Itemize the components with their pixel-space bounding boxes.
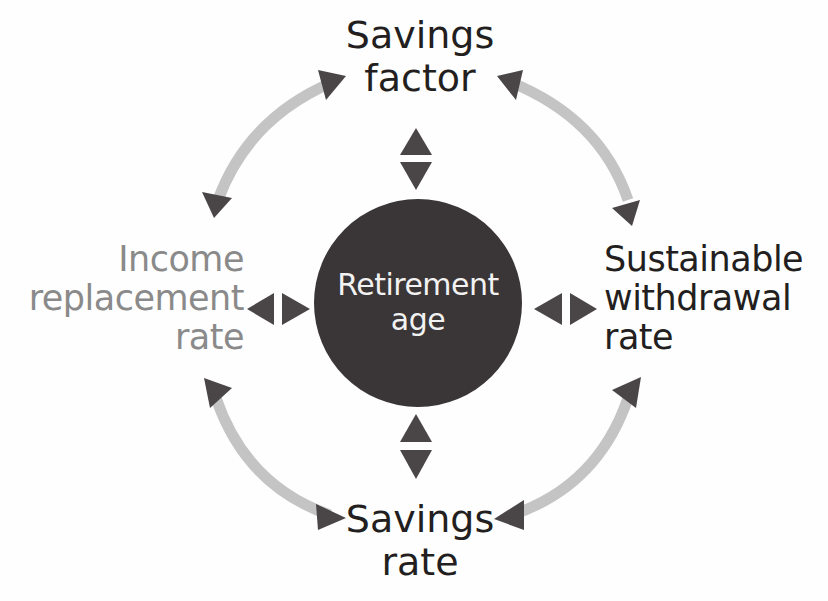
node-label-line: factor <box>320 57 520 100</box>
node-label-line: Income <box>0 240 244 279</box>
node-label-line: rate <box>0 318 244 357</box>
arrow-left-icon <box>534 293 562 325</box>
arrow-up-icon <box>400 128 432 155</box>
arrow-right-icon <box>282 293 310 325</box>
node-label-line: Savings <box>320 14 520 57</box>
arrow-down-icon <box>400 162 432 190</box>
center-label-line: Retirement <box>318 268 518 303</box>
node-label-line: withdrawal <box>604 279 828 318</box>
node-savings-factor: Savings factor <box>320 14 520 99</box>
node-label-line: replacement <box>0 279 244 318</box>
arrow-left-icon <box>247 293 274 325</box>
center-label-line: age <box>318 303 518 338</box>
arrow-right-icon <box>570 293 597 325</box>
arrowhead-icon <box>202 192 232 218</box>
arc-bottom-right <box>512 398 628 515</box>
arc-top-right <box>510 82 628 200</box>
node-sustainable-withdrawal-rate: Sustainable withdrawal rate <box>604 240 828 358</box>
node-income-replacement-rate: Income replacement rate <box>0 240 244 358</box>
center-node-retirement-age: Retirement age <box>318 268 518 337</box>
node-label-line: rate <box>604 318 828 357</box>
arc-bottom-left <box>216 398 330 515</box>
node-label-line: Savings <box>320 498 520 541</box>
arrow-down-icon <box>400 450 432 479</box>
node-label-line: rate <box>320 541 520 584</box>
arc-top-left <box>218 82 333 200</box>
node-label-line: Sustainable <box>604 240 828 279</box>
arrowhead-icon <box>612 200 640 226</box>
arrow-up-icon <box>400 414 432 442</box>
node-savings-rate: Savings rate <box>320 498 520 583</box>
